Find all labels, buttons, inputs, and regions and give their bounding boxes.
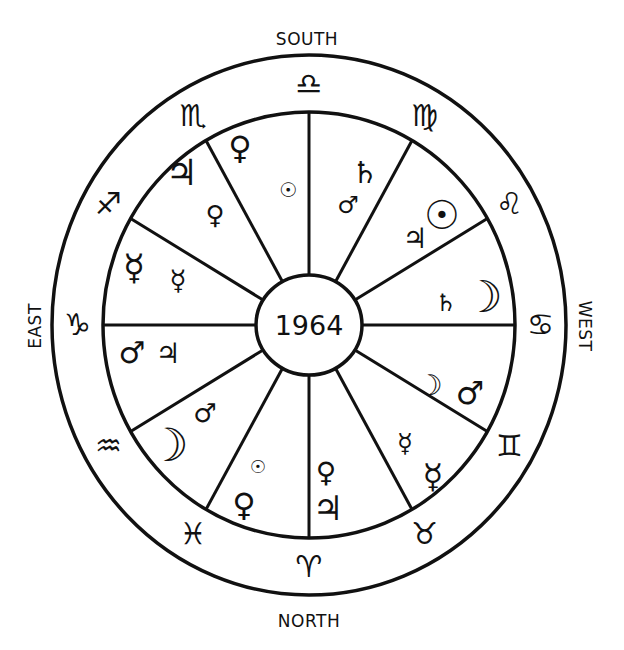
zodiac-sign-scorpio-icon: ♏ xyxy=(180,98,207,133)
planet-mercury-icon: ☿ xyxy=(397,428,413,458)
zodiac-sign-pisces-icon: ♓ xyxy=(180,516,207,551)
planet-venus-icon: ♀ xyxy=(316,456,337,489)
planet-mars-icon: ♂ xyxy=(337,191,359,219)
zodiac-sign-leo-icon: ♌ xyxy=(496,186,523,221)
direction-west: WEST xyxy=(575,301,595,352)
zodiac-sign-cancer-icon: ♋ xyxy=(527,307,554,342)
planet-jupiter-icon: ♃ xyxy=(313,488,343,528)
zodiac-sign-libra-icon: ♎ xyxy=(296,66,323,101)
planet-venus-icon: ♀ xyxy=(232,486,255,524)
planet-sun-icon: ☉ xyxy=(250,456,266,477)
direction-north: NORTH xyxy=(278,611,340,631)
center-year: 1964 xyxy=(275,310,344,341)
planet-mercury-icon: ☿ xyxy=(123,247,145,288)
planet-mercury-icon: ☿ xyxy=(423,456,444,496)
planet-jupiter-icon: ♃ xyxy=(155,337,180,370)
zodiac-sign-gemini-icon: ♊ xyxy=(496,428,523,463)
horoscope-wheel: 1964 SOUTH NORTH EAST WEST ♎♍♌♋♊♉♈♓♒♑♐♏ … xyxy=(0,0,624,650)
planet-saturn-icon: ♄ xyxy=(352,155,379,190)
planet-venus-icon: ♀ xyxy=(205,200,224,230)
planet-moon-icon: ☽ xyxy=(147,418,188,472)
planet-mars-icon: ♂ xyxy=(456,374,485,412)
planet-saturn-icon: ♄ xyxy=(435,289,457,317)
planet-sun-icon: ☉ xyxy=(424,192,460,238)
zodiac-sign-capricorn-icon: ♑ xyxy=(64,307,91,342)
zodiac-sign-aries-icon: ♈ xyxy=(296,549,323,584)
zodiac-sign-virgo-icon: ♍ xyxy=(411,98,438,133)
direction-south: SOUTH xyxy=(276,29,338,49)
zodiac-sign-taurus-icon: ♉ xyxy=(411,516,438,551)
planet-mercury-icon: ☿ xyxy=(169,264,186,297)
planet-venus-icon: ♀ xyxy=(228,129,251,167)
zodiac-sign-sagittarius-icon: ♐ xyxy=(95,186,122,221)
direction-east: EAST xyxy=(25,303,45,349)
house-cusp-line xyxy=(131,219,264,301)
planet-sun-icon: ☉ xyxy=(279,178,297,202)
zodiac-sign-aquarius-icon: ♒ xyxy=(95,428,122,463)
planet-moon-icon: ☽ xyxy=(463,271,502,322)
planet-jupiter-icon: ♃ xyxy=(166,152,198,193)
planet-mars-icon: ♂ xyxy=(119,335,146,370)
planet-mars-icon: ♂ xyxy=(193,398,216,428)
planet-moon-icon: ☽ xyxy=(417,369,442,402)
